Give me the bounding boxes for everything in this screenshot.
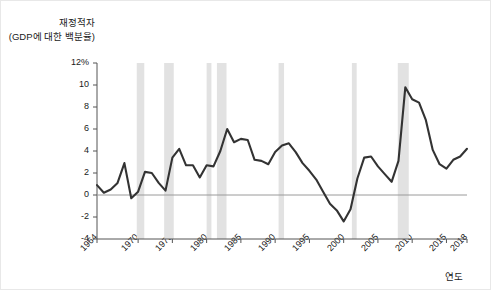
recession-band (352, 63, 357, 239)
recession-band (164, 63, 174, 239)
recession-band (217, 63, 227, 239)
chart-figure: 재정적자 (GDP에 대한 백분율) 연도 12%1086420-2-4 196… (0, 0, 491, 290)
line-chart-plot (1, 1, 491, 290)
recession-band (279, 63, 284, 239)
recession-band (137, 63, 145, 239)
recession-band (207, 63, 212, 239)
